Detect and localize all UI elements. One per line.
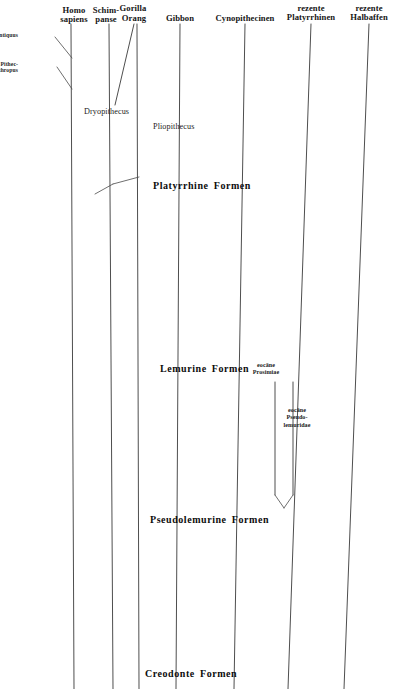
fossil-note-eocaene-prosimiae: eocäneProsimiae [253, 362, 280, 377]
dryopithecus-stem [113, 177, 139, 184]
column-header-cynopithecinen: Cynopithecinen [216, 14, 275, 23]
side-note-homo-antiquus-line-1: Homo antiquus [0, 33, 18, 39]
column-header-schimpanse-line-2: panse [93, 15, 119, 24]
side-note-pithecanthropus-line-2: anthropus [0, 68, 18, 74]
tree-lines-layer [0, 0, 396, 689]
phylogenetic-tree-figure: HomosapiensSchim-panseGorillaOrangGibbon… [0, 0, 396, 689]
column-header-orang-line-1: Orang [122, 14, 146, 23]
band-title-creodonte-formen: Creodonte Formen [145, 669, 237, 680]
column-header-rezente-platyrrhinen-line-2: Platyrrhinen [287, 13, 335, 22]
column-header-rezente-platyrrhinen: rezentePlatyrrhinen [287, 4, 335, 22]
fossil-note-eocaene-pseudolemuridae-line-3: lemuridae [284, 422, 311, 429]
fossil-note-eocaene-prosimiae-line-2: Prosimiae [253, 369, 280, 376]
column-header-orang: Orang [122, 14, 146, 23]
band-title-platyrrhine-formen: Platyrrhine Formen [153, 181, 251, 192]
column-header-rezente-halbaffen: rezenteHalbaffen [350, 4, 388, 22]
band-title-pseudolemurine-formen-line-1: Pseudolemurine Formen [150, 515, 269, 526]
pithecanthropus-leader [57, 67, 72, 89]
column-header-rezente-halbaffen-line-2: Halbaffen [350, 13, 388, 22]
band-title-platyrrhine-formen-line-1: Platyrrhine Formen [153, 181, 251, 192]
pseudolemuridae-v-right [284, 495, 293, 508]
column-header-schimpanse: Schim-panse [93, 6, 119, 24]
homo-sapiens-lineage [71, 24, 74, 689]
band-title-pseudolemurine-formen: Pseudolemurine Formen [150, 515, 269, 526]
fossil-note-eocaene-pseudolemuridae-line-1: eocäne [284, 407, 311, 414]
genus-label-dryopithecus-line-1: Dryopithecus [84, 108, 129, 117]
side-note-homo-antiquus: Homo antiquus [0, 33, 18, 39]
halbaffen-lineage [344, 24, 369, 689]
lineage-lines-group [71, 24, 369, 689]
column-header-gibbon-line-1: Gibbon [166, 14, 194, 23]
homo-antiquus-leader [55, 37, 72, 58]
column-header-homo-sapiens: Homosapiens [60, 6, 87, 24]
schimpanse-lineage [109, 24, 113, 689]
column-header-gibbon: Gibbon [166, 14, 194, 23]
column-header-gorilla: Gorilla [120, 4, 147, 13]
genus-label-dryopithecus: Dryopithecus [84, 108, 129, 117]
side-note-pithecanthropus: Pithec-anthropus [0, 62, 18, 74]
fossil-note-eocaene-pseudolemuridae-line-2: Pseudo- [284, 414, 311, 421]
band-title-creodonte-formen-line-1: Creodonte Formen [145, 669, 237, 680]
pseudolemuridae-v-left [275, 495, 284, 508]
band-title-lemurine-formen-line-1: Lemurine Formen [160, 364, 249, 375]
column-header-homo-sapiens-line-2: sapiens [60, 15, 87, 24]
fossil-note-eocaene-prosimiae-line-1: eocäne [253, 362, 280, 369]
column-header-cynopithecinen-line-1: Cynopithecinen [216, 14, 275, 23]
band-title-lemurine-formen: Lemurine Formen [160, 364, 249, 375]
orang-lineage [137, 24, 139, 689]
genus-label-pliopithecus: Pliopithecus [153, 123, 194, 132]
column-header-gorilla-line-1: Gorilla [120, 4, 147, 13]
gorilla-lineage [115, 24, 134, 105]
platyrrhinen-lineage [288, 24, 311, 689]
fossil-note-eocaene-pseudolemuridae: eocänePseudo-lemuridae [284, 407, 311, 429]
genus-label-pliopithecus-line-1: Pliopithecus [153, 123, 194, 132]
cynopithecinen-lineage [234, 24, 245, 689]
